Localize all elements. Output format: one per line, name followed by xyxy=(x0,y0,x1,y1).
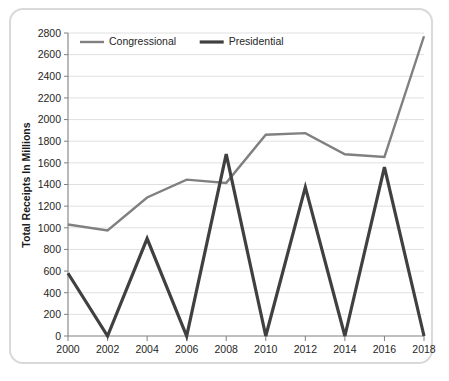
y-axis-tick-label: 2000 xyxy=(38,113,62,125)
chart-canvas: 0200400600800100012001400160018002000220… xyxy=(0,0,449,381)
x-axis-tick-label: 2014 xyxy=(333,343,357,355)
x-axis-tick-labels-group: 2000200220042006200820102012201420162018 xyxy=(56,343,436,355)
chart-legend: CongressionalPresidential xyxy=(80,35,284,47)
x-axis-tick-label: 2000 xyxy=(56,343,80,355)
x-axis-tick-label: 2006 xyxy=(175,343,199,355)
x-axis-tick-label: 2018 xyxy=(412,343,436,355)
y-axis-tick-label: 400 xyxy=(43,287,61,299)
x-axis-tick-label: 2004 xyxy=(135,343,159,355)
y-axis-tick-label: 1200 xyxy=(38,200,62,212)
y-axis-tick-label: 1800 xyxy=(38,135,62,147)
x-axis-tick-label: 2010 xyxy=(254,343,278,355)
y-axis-tick-label: 1000 xyxy=(38,222,62,234)
y-axis-ticks-group xyxy=(64,33,68,336)
x-axis-tick-label: 2016 xyxy=(373,343,397,355)
gridlines-group xyxy=(68,33,424,314)
series-line-congressional xyxy=(68,36,424,230)
y-axis-tick-label: 2400 xyxy=(38,70,62,82)
line-chart: 0200400600800100012001400160018002000220… xyxy=(0,0,449,381)
x-axis-tick-label: 2012 xyxy=(294,343,318,355)
y-axis-tick-labels-group: 0200400600800100012001400160018002000220… xyxy=(38,27,62,342)
x-axis-tick-label: 2008 xyxy=(215,343,239,355)
y-axis-tick-label: 1400 xyxy=(38,178,62,190)
y-axis-tick-label: 800 xyxy=(43,243,61,255)
y-axis-tick-label: 2600 xyxy=(38,48,62,60)
y-axis-tick-label: 1600 xyxy=(38,157,62,169)
x-axis-ticks-group xyxy=(68,336,424,341)
series-lines-group xyxy=(68,36,424,336)
y-axis-tick-label: 600 xyxy=(43,265,61,277)
y-axis-tick-label: 2200 xyxy=(38,92,62,104)
y-axis-tick-label: 200 xyxy=(43,308,61,320)
x-axis-tick-label: 2002 xyxy=(96,343,120,355)
y-axis-title: Total Receipts In Millions xyxy=(20,122,32,247)
legend-label-congressional: Congressional xyxy=(109,35,176,47)
y-axis-tick-label: 0 xyxy=(55,330,61,342)
y-axis-tick-label: 2800 xyxy=(38,27,62,39)
series-line-presidential xyxy=(68,154,424,336)
legend-label-presidential: Presidential xyxy=(229,35,284,47)
